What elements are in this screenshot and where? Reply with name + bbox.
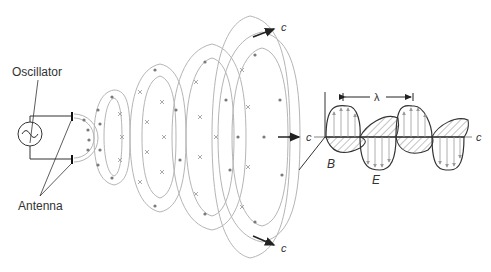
antenna-label: Antenna bbox=[18, 199, 63, 213]
oscillator-circuit: Oscillator Antenna bbox=[12, 65, 72, 213]
field-dots bbox=[82, 53, 291, 223]
speed-label-bottom: c bbox=[281, 242, 287, 254]
speed-label-axis-right: c bbox=[476, 131, 482, 143]
speed-label-top: c bbox=[281, 21, 287, 33]
speed-label-axis-left: c bbox=[306, 131, 312, 143]
em-wave-diagram: Oscillator Antenna bbox=[0, 0, 491, 272]
wavelength-label: λ bbox=[374, 91, 380, 103]
oscillator-label: Oscillator bbox=[12, 65, 62, 79]
magnetic-field-label: B bbox=[327, 157, 335, 171]
propagation-arrows: c c bbox=[253, 21, 299, 254]
em-wave: c c λ B E bbox=[299, 91, 482, 187]
field-loops bbox=[74, 16, 300, 258]
electric-field-label: E bbox=[372, 173, 381, 187]
